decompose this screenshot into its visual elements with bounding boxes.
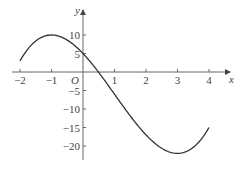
origin-label: O <box>71 74 79 86</box>
chart: −2−11234 105−5−10−15−20 x y O <box>0 0 244 173</box>
x-tick-label: 1 <box>112 74 118 86</box>
x-tick-label: −2 <box>14 74 26 86</box>
x-tick-label: 3 <box>175 74 181 86</box>
y-tick-label: 10 <box>69 29 81 41</box>
x-tick-label: −1 <box>46 74 58 86</box>
y-tick-label: −20 <box>63 140 81 152</box>
x-axis-label: x <box>228 73 234 85</box>
y-tick-label: −15 <box>63 122 81 134</box>
y-tick-label: −10 <box>63 103 81 115</box>
y-tick-label: −5 <box>68 85 80 97</box>
y-axis-label: y <box>74 4 80 16</box>
x-tick-label: 4 <box>206 74 212 86</box>
function-curve <box>20 35 209 153</box>
x-tick-label: 2 <box>143 74 149 86</box>
